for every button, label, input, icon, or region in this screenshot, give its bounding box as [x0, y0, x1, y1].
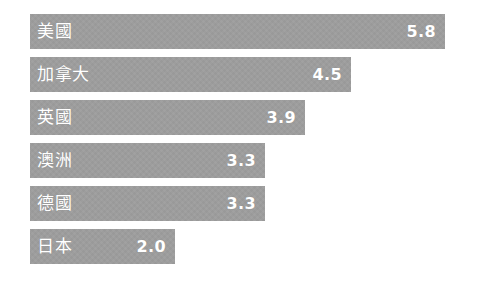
bar-category-label: 澳洲: [37, 143, 72, 178]
bar-value-label: 4.5: [312, 57, 342, 92]
bar-row: 澳洲 3.3: [30, 143, 481, 178]
bar-category-label: 日本: [37, 229, 72, 264]
bar-row: 日本 2.0: [30, 229, 481, 264]
bar-row: 加拿大 4.5: [30, 57, 481, 92]
bar-value-label: 3.3: [226, 186, 256, 221]
bar-value-label: 5.8: [406, 14, 436, 49]
bar-category-label: 德國: [37, 186, 72, 221]
bar-uk[interactable]: 英國 3.9: [30, 100, 305, 135]
bar-chart: 美國 5.8 加拿大 4.5 英國 3.9 澳洲 3.3 德國: [0, 0, 481, 287]
bar-row: 英國 3.9: [30, 100, 481, 135]
bar-row: 美國 5.8: [30, 14, 481, 49]
bar-row: 德國 3.3: [30, 186, 481, 221]
bar-japan[interactable]: 日本 2.0: [30, 229, 175, 264]
bars-area: 美國 5.8 加拿大 4.5 英國 3.9 澳洲 3.3 德國: [30, 14, 481, 287]
bar-category-label: 美國: [37, 14, 72, 49]
bar-value-label: 3.3: [226, 143, 256, 178]
bar-australia[interactable]: 澳洲 3.3: [30, 143, 265, 178]
bar-usa[interactable]: 美國 5.8: [30, 14, 445, 49]
bar-germany[interactable]: 德國 3.3: [30, 186, 265, 221]
bar-value-label: 2.0: [136, 229, 166, 264]
bar-category-label: 加拿大: [37, 57, 90, 92]
bar-canada[interactable]: 加拿大 4.5: [30, 57, 351, 92]
bar-category-label: 英國: [37, 100, 72, 135]
bar-value-label: 3.9: [266, 100, 296, 135]
